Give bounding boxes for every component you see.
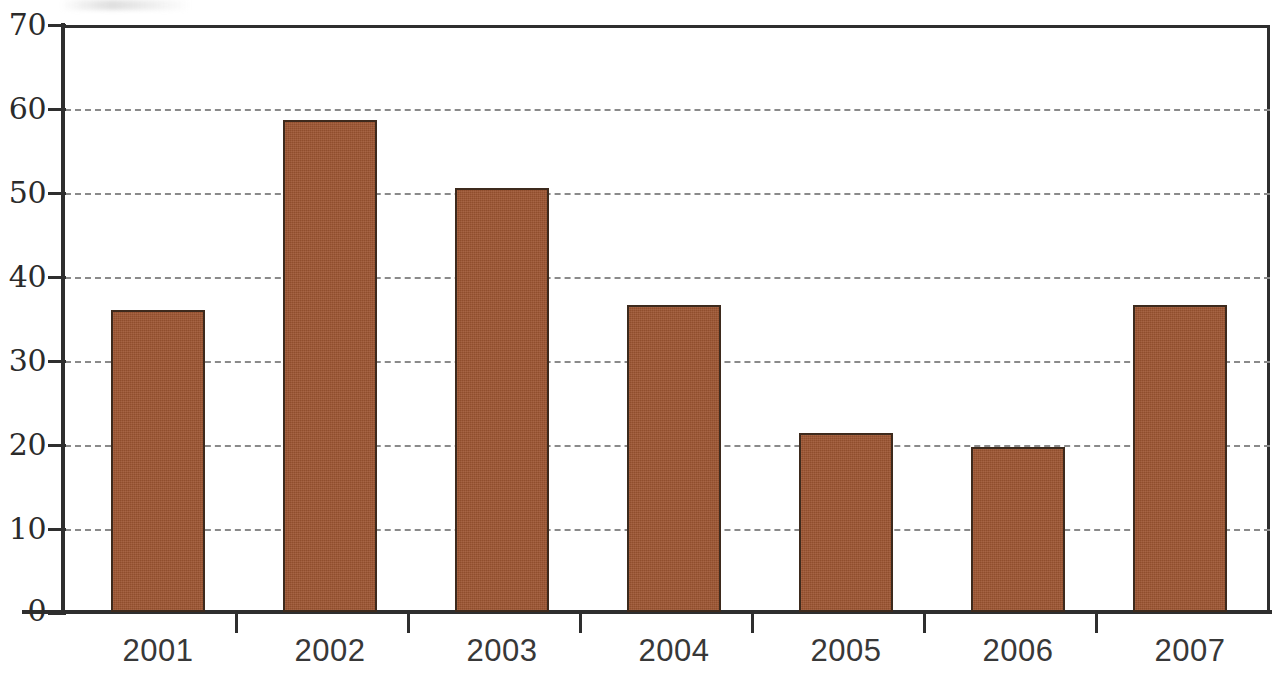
scan-artifact xyxy=(60,0,190,10)
y-tick-60 xyxy=(48,108,66,111)
gridline-50 xyxy=(65,193,1270,195)
x-tick-boundary-3 xyxy=(579,613,582,633)
bar-chart: 70 60 50 40 30 20 10 0 2001 2002 2003 20… xyxy=(0,0,1278,675)
x-axis-label-2001: 2001 xyxy=(72,634,244,668)
x-axis-label-2004: 2004 xyxy=(588,634,760,668)
x-axis-label-2003: 2003 xyxy=(416,634,588,668)
x-axis-label-2007: 2007 xyxy=(1104,634,1276,668)
bar-2007 xyxy=(1133,305,1227,612)
y-axis-label-60: 60 xyxy=(0,94,46,124)
x-tick-boundary-1 xyxy=(235,613,238,633)
y-axis-label-30: 30 xyxy=(0,346,46,376)
bar-2005 xyxy=(799,433,893,612)
x-axis-label-2002: 2002 xyxy=(244,634,416,668)
y-axis-line xyxy=(61,23,65,615)
x-tick-boundary-6 xyxy=(1095,613,1098,633)
y-axis-label-10: 10 xyxy=(0,514,46,544)
y-axis-label-0: 0 xyxy=(0,596,46,626)
x-axis-label-2006: 2006 xyxy=(932,634,1104,668)
gridline-60 xyxy=(65,109,1270,111)
y-axis-label-70: 70 xyxy=(0,10,46,40)
y-tick-50 xyxy=(48,192,66,195)
y-axis-label-20: 20 xyxy=(0,430,46,460)
gridline-40 xyxy=(65,277,1270,279)
x-tick-boundary-2 xyxy=(407,613,410,633)
y-tick-0 xyxy=(48,610,66,615)
bar-2006 xyxy=(971,447,1065,612)
y-axis-label-50: 50 xyxy=(0,178,46,208)
bar-2004 xyxy=(627,305,721,612)
y-tick-40 xyxy=(48,276,66,279)
bar-2001 xyxy=(111,310,205,612)
y-tick-20 xyxy=(48,444,66,447)
y-tick-30 xyxy=(48,360,66,363)
bar-2002 xyxy=(283,120,377,612)
bar-2003 xyxy=(455,188,549,612)
x-tick-boundary-4 xyxy=(751,613,754,633)
x-axis-label-2005: 2005 xyxy=(760,634,932,668)
y-tick-70 xyxy=(48,24,66,27)
x-tick-boundary-5 xyxy=(923,613,926,633)
y-axis-label-40: 40 xyxy=(0,262,46,292)
y-tick-10 xyxy=(48,528,66,531)
